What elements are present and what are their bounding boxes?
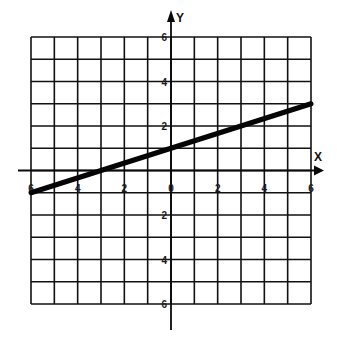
x-tick-label: 4 <box>75 183 81 194</box>
y-tick-label: 6 <box>161 32 167 43</box>
y-tick-label: 2 <box>161 210 167 221</box>
y-axis-label: Y <box>176 11 184 25</box>
y-axis-arrow-icon <box>167 10 175 22</box>
x-tick-label: 0 <box>168 183 174 194</box>
y-tick-label: 2 <box>161 121 167 132</box>
y-tick-label: 6 <box>161 299 167 310</box>
line-graph: 6420246642246 X Y <box>0 0 337 340</box>
x-axis-arrow-icon <box>314 166 324 176</box>
x-tick-label: 6 <box>308 183 314 194</box>
y-tick-label: 4 <box>161 77 167 88</box>
x-axis-label: X <box>314 150 322 164</box>
y-tick-label: 4 <box>161 255 167 266</box>
x-tick-label: 4 <box>262 183 268 194</box>
x-tick-label: 2 <box>215 183 221 194</box>
x-tick-label: 2 <box>122 183 128 194</box>
